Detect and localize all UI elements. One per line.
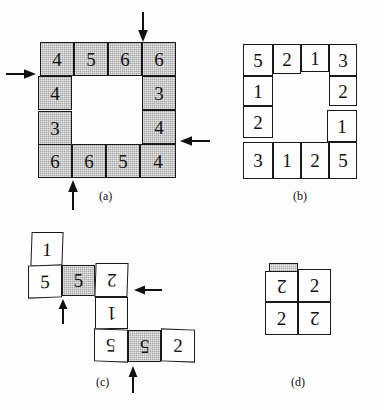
panel-a-value-r3c2: 5 <box>118 152 128 171</box>
tile-c-5d-value: 5 <box>140 337 150 356</box>
panel-a-cell-r0c3: 6 <box>142 42 176 76</box>
panel-a-cell-r0c2: 6 <box>108 42 142 76</box>
tile-c-5c: 5 <box>94 328 128 362</box>
panel-b-cell-r0c1: 2 <box>273 44 301 74</box>
panel-d-cell-r1c1: 2 <box>298 302 331 335</box>
panel-a-caption: (a) <box>99 189 112 204</box>
panel-b-cell-r2c0: 2 <box>243 106 273 138</box>
panel-a-value-r3c1: 6 <box>84 152 94 171</box>
panel-b-value-r0c0: 5 <box>253 51 263 70</box>
panel-b-value-r3c0: 3 <box>253 151 263 170</box>
arrow-c-right-left <box>134 283 162 297</box>
panel-a-cell-r0c1: 5 <box>74 42 108 76</box>
panel-a-value-r0c0: 4 <box>52 50 62 69</box>
arrow-right-left <box>180 134 210 148</box>
panel-a-cell-r1c0: 4 <box>38 76 72 110</box>
tile-c-5c-value: 5 <box>106 336 116 355</box>
tile-c-5b: 5 <box>62 265 95 296</box>
panel-b-value-r1c3: 2 <box>338 82 348 101</box>
panel-d-cell-r0c0: 2 <box>265 271 298 302</box>
tile-c-1b-value: 1 <box>107 304 117 323</box>
tile-c-1b: 1 <box>95 297 128 329</box>
panel-d-cell-r0c1: 2 <box>298 269 331 302</box>
panel-b-cell-r3c0: 3 <box>243 142 273 179</box>
panel-a-value-r0c3: 6 <box>154 50 164 69</box>
tile-c-5d: 5 <box>128 330 161 362</box>
panel-d-value-r0c1: 2 <box>310 276 320 295</box>
panel-b-value-r2c3: 1 <box>337 117 347 136</box>
panel-d-value-r0c0: 2 <box>277 277 287 296</box>
panel-d-caption: (d) <box>291 375 305 390</box>
panel-a-value-r0c1: 5 <box>86 50 96 69</box>
tile-c-5b-value: 5 <box>74 271 84 290</box>
panel-a-value-r1c0: 4 <box>50 84 60 103</box>
panel-a-cell-r3c0: 6 <box>38 144 72 178</box>
panel-a-value-r2c0: 3 <box>50 119 60 138</box>
panel-d-cell-r1c0: 2 <box>265 302 298 335</box>
panel-b-value-r0c2: 1 <box>310 49 320 68</box>
panel-d-value-r1c1: 2 <box>310 309 320 328</box>
panel-b-cell-r3c2: 2 <box>301 142 329 179</box>
panel-a-value-r1c3: 3 <box>154 84 164 103</box>
panel-a-cell-r2c0: 3 <box>38 111 72 145</box>
panel-b-cell-r1c0: 1 <box>243 76 273 106</box>
tile-c-5a-value: 5 <box>40 272 50 291</box>
panel-d-value-r1c0: 2 <box>277 309 287 328</box>
panel-a-cell-r2c3: 4 <box>142 110 176 144</box>
arrow-c-left-up <box>56 299 70 324</box>
panel-b-cell-r2c3: 1 <box>327 110 357 142</box>
panel-c-caption: (c) <box>96 375 109 390</box>
figure-panels: 4 5 6 6 4 3 3 4 6 6 5 4 <box>0 0 384 410</box>
panel-a-cell-r3c1: 6 <box>72 144 106 178</box>
panel-a-value-r2c3: 4 <box>154 118 164 137</box>
tile-c-2b-value: 2 <box>173 336 183 355</box>
panel-b-cell-r3c1: 1 <box>273 142 301 179</box>
arrow-bottom-up <box>66 180 80 210</box>
panel-b-value-r1c0: 1 <box>253 82 263 101</box>
panel-a-cell-r0c0: 4 <box>40 42 74 76</box>
panel-b-cell-r0c3: 3 <box>329 44 357 76</box>
tile-c-2b: 2 <box>161 328 195 362</box>
tile-c-5a: 5 <box>28 264 62 298</box>
arrow-left-right <box>6 67 36 81</box>
tile-c-1: 1 <box>30 232 63 266</box>
panel-a-value-r0c2: 6 <box>120 50 130 69</box>
panel-b-value-r3c1: 1 <box>282 151 292 170</box>
panel-b-cell-r3c3: 5 <box>329 142 357 179</box>
panel-a-value-r3c3: 4 <box>153 152 163 171</box>
panel-b-value-r2c0: 2 <box>253 113 263 132</box>
tile-c-1-value: 1 <box>42 240 52 259</box>
arrow-top-down <box>136 12 150 42</box>
panel-b-value-r0c3: 3 <box>338 51 348 70</box>
panel-b-cell-r0c2: 1 <box>301 44 329 72</box>
panel-a-cell-r1c3: 3 <box>142 76 176 110</box>
panel-a-cell-r3c2: 5 <box>106 144 140 178</box>
panel-b-caption: (b) <box>293 189 307 204</box>
arrow-c-bottom-up <box>126 366 140 393</box>
panel-a-cell-r3c3: 4 <box>140 144 176 178</box>
panel-a-value-r3c0: 6 <box>50 152 60 171</box>
panel-b-value-r0c1: 2 <box>282 50 292 69</box>
tile-c-2a: 2 <box>94 263 128 297</box>
panel-b-cell-r0c0: 5 <box>243 44 273 76</box>
tile-c-2a-value: 2 <box>106 271 116 290</box>
panel-b-value-r3c2: 2 <box>310 151 320 170</box>
panel-b-cell-r1c3: 2 <box>329 76 357 106</box>
panel-b-value-r3c3: 5 <box>338 151 348 170</box>
